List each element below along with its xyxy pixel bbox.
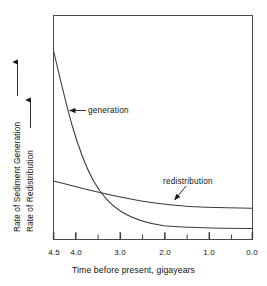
x-axis-tick-labels: 4.5 4.0 3.0 2.0 1.0 0.0 [0,248,267,260]
x-tick-label-0-0: 0.0 [246,248,258,257]
plot-area-frame [53,15,253,240]
x-tick-label-2-0: 2.0 [159,248,171,257]
y-axis-label-redistribution: Rate of Redistribution [26,150,35,232]
chart-figure: Rate of Sediment Generation Rate of Redi… [0,0,267,286]
x-tick-label-1-0: 1.0 [203,248,215,257]
x-tick-label-3-0: 3.0 [114,248,126,257]
annotation-generation: generation [88,106,129,115]
annotation-redistribution: redistribution [163,177,213,186]
x-tick-label-4-0: 4.0 [70,248,82,257]
y-axis-label-sediment-generation: Rate of Sediment Generation [13,122,22,232]
y-axis-label-group: Rate of Sediment Generation Rate of Redi… [0,0,52,245]
x-tick-label-4-5: 4.5 [48,248,60,257]
x-axis-title: Time before present, gigayears [0,265,267,275]
